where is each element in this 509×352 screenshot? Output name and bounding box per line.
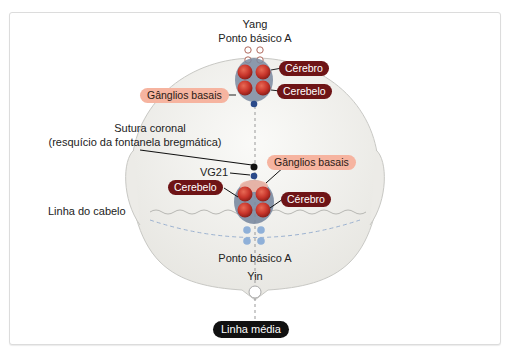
top-cluster-bg — [235, 58, 273, 102]
vg21-label: VG21 — [199, 166, 229, 179]
top-blue-point — [251, 101, 258, 108]
top-cerebro-label: Cérebro — [279, 61, 329, 76]
sutura-label-2: (resquício da fontanela bregmática) — [30, 136, 240, 149]
sutura-point — [251, 164, 258, 171]
bottom-point-label: Ponto básico A — [206, 252, 304, 265]
hairline-label: Linha do cabelo — [48, 205, 138, 218]
mid-cerebro-label: Cérebro — [281, 192, 331, 207]
vg21-point — [251, 173, 258, 180]
yin-label: Yin — [240, 270, 270, 283]
mid-cerebelo-label: Cerebelo — [168, 180, 223, 195]
yang-label: Yang — [236, 18, 274, 31]
sutura-label-1: Sutura coronal — [80, 122, 220, 135]
top-point-label: Ponto básico A — [206, 32, 304, 45]
midline-label: Linha média — [213, 321, 289, 338]
mid-ganglios-label: Gânglios basais — [267, 155, 356, 170]
head-diagram — [0, 0, 509, 352]
top-ganglios-label: Gânglios basais — [140, 88, 229, 103]
top-cerebelo-label: Cerebelo — [277, 84, 332, 99]
